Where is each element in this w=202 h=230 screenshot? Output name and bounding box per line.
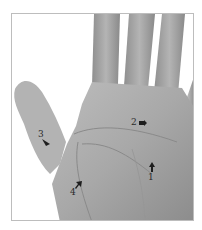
arrow-icon — [42, 139, 50, 146]
arrow-icon — [75, 181, 82, 189]
index-finger — [92, 14, 120, 86]
arrow-icon — [139, 120, 147, 126]
palm — [52, 82, 194, 221]
annotation-label-4: 4 — [70, 188, 76, 197]
ring-finger — [154, 14, 185, 94]
palm-photo — [12, 14, 194, 221]
annotation-label-1: 1 — [148, 173, 154, 182]
annotation-label-3: 3 — [38, 130, 44, 139]
figure-frame — [11, 13, 194, 221]
middle-finger — [124, 14, 155, 89]
annotation-label-2: 2 — [131, 118, 137, 127]
thumb — [14, 81, 66, 174]
arrow-icon — [149, 162, 155, 172]
